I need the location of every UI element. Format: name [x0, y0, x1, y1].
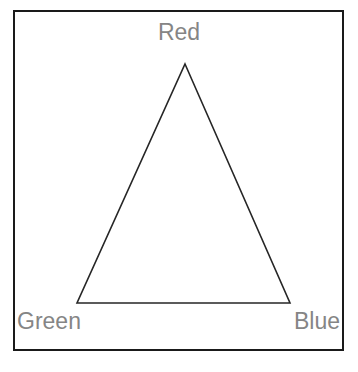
vertex-label-red: Red — [0, 21, 358, 44]
vertex-label-blue: Blue — [0, 310, 340, 333]
diagram-canvas: Red Green Blue — [0, 0, 358, 372]
outer-border — [13, 10, 344, 351]
